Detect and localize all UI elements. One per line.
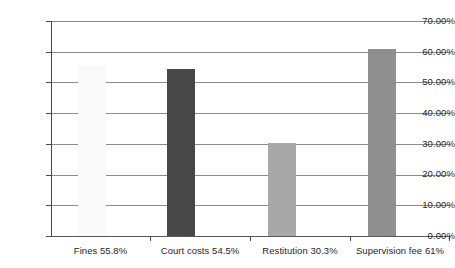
y-axis-label-10: 10.00%: [407, 200, 455, 210]
bar-court-costs: [167, 69, 195, 236]
x-axis-label-restitution: Restitution 30.3%: [250, 245, 350, 256]
x-axis-label-supervision-fee: Supervision fee 61%: [350, 245, 450, 256]
y-axis-label-70: 70.00%: [407, 16, 455, 26]
x-axis-label-court-costs: Court costs 54.5%: [150, 245, 250, 256]
gridline-70: [51, 21, 450, 22]
plot-area: [51, 21, 450, 236]
y-axis-label-20: 20.00%: [407, 169, 455, 179]
y-axis-label-40: 40.00%: [407, 108, 455, 118]
bar-supervision-fee: [368, 49, 396, 236]
x-tick-1: [150, 236, 151, 241]
x-axis-label-fines: Fines 55.8%: [51, 245, 150, 256]
bar-restitution: [268, 143, 296, 236]
bar-fines: [78, 65, 106, 236]
y-axis-line: [51, 21, 52, 237]
x-tick-3: [350, 236, 351, 241]
y-axis-label-60: 60.00%: [407, 47, 455, 57]
y-axis-label-0: 0.00%: [407, 231, 455, 241]
y-axis-label-50: 50.00%: [407, 77, 455, 87]
bar-chart: 70.00% 60.00% 50.00% 40.00% 30.00% 20.00…: [0, 0, 455, 268]
y-axis-label-30: 30.00%: [407, 139, 455, 149]
x-tick-2: [250, 236, 251, 241]
